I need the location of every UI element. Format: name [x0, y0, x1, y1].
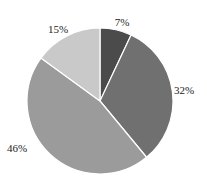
- slice-label-3: 15%: [48, 24, 68, 35]
- slice-label-1: 32%: [174, 85, 194, 96]
- slice-label-0: 7%: [115, 17, 130, 28]
- slice-label-2: 46%: [7, 143, 27, 154]
- pie-chart: 7% 32% 46% 15%: [0, 0, 207, 196]
- pie-chart-plot-area: [0, 0, 207, 196]
